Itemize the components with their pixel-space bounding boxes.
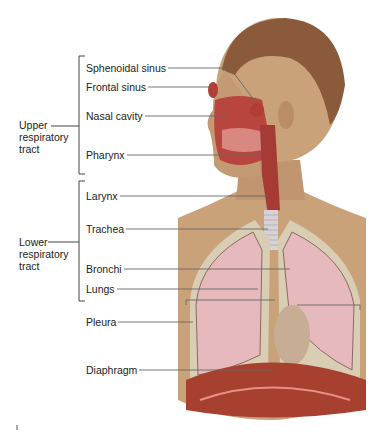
group-line: Lower — [19, 236, 69, 248]
anatomy-illustration — [0, 0, 389, 432]
label-lungs: Lungs — [86, 283, 117, 295]
label-trachea: Trachea — [86, 223, 126, 235]
label-pleura: Pleura — [86, 316, 118, 328]
label-sphenoidal-sinus: Sphenoidal sinus — [86, 62, 168, 74]
group-label-lower-respiratory-tract: Lower respiratory tract — [19, 236, 69, 272]
respiratory-diagram: Upper respiratory tract Lower respirator… — [0, 0, 389, 432]
group-line: Upper — [19, 119, 69, 131]
group-line: respiratory — [19, 131, 69, 143]
label-larynx: Larynx — [86, 190, 120, 202]
group-label-upper-respiratory-tract: Upper respiratory tract — [19, 119, 69, 155]
group-line: tract — [19, 260, 69, 272]
label-bronchi: Bronchi — [86, 263, 124, 275]
label-pharynx: Pharynx — [86, 149, 127, 161]
label-frontal-sinus: Frontal sinus — [86, 81, 148, 93]
group-line: tract — [19, 143, 69, 155]
label-nasal-cavity: Nasal cavity — [86, 110, 145, 122]
label-diaphragm: Diaphragm — [86, 364, 139, 376]
group-line: respiratory — [19, 248, 69, 260]
